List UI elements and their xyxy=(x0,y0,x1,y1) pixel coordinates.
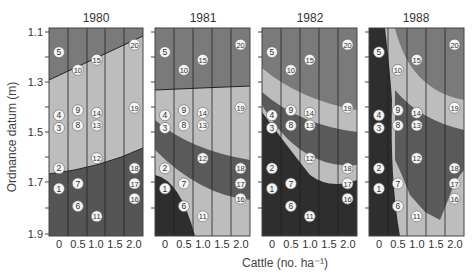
site-label: 15 xyxy=(413,56,421,65)
site-label: 9 xyxy=(181,105,186,115)
site-label: 6 xyxy=(288,201,293,211)
site-label: 5 xyxy=(163,47,168,57)
site-label: 20 xyxy=(343,41,351,50)
site-label: 18 xyxy=(450,164,458,173)
site-label: 12 xyxy=(306,154,314,163)
site-label: 4 xyxy=(270,110,275,120)
x-axis-label: Cattle (no. ha⁻¹) xyxy=(200,256,370,270)
site-label: 3 xyxy=(57,123,62,133)
site-label: 11 xyxy=(93,212,101,221)
site-label: 13 xyxy=(199,121,207,130)
site-label: 3 xyxy=(270,123,275,133)
site-label: 2 xyxy=(57,163,62,173)
site-label: 6 xyxy=(181,201,186,211)
site-label: 7 xyxy=(181,179,186,189)
svg-text:1.0: 1.0 xyxy=(302,238,317,250)
svg-text:0.5: 0.5 xyxy=(390,238,405,250)
site-label: 8 xyxy=(288,120,293,130)
svg-text:1.0: 1.0 xyxy=(88,238,103,250)
svg-text:1.5: 1.5 xyxy=(321,238,336,250)
svg-text:1.0: 1.0 xyxy=(195,238,210,250)
site-label: 19 xyxy=(130,104,138,113)
site-label: 8 xyxy=(395,120,400,130)
site-label: 15 xyxy=(93,56,101,65)
svg-text:2.0: 2.0 xyxy=(340,238,355,250)
site-label: 14 xyxy=(306,109,314,118)
site-label: 18 xyxy=(343,164,351,173)
site-label: 5 xyxy=(57,47,62,57)
site-label: 10 xyxy=(394,66,402,75)
site-label: 19 xyxy=(236,104,244,113)
site-label: 1 xyxy=(57,184,62,194)
y-tick-1.5: 1.5 xyxy=(28,126,43,138)
panel-title-1980: 1980 xyxy=(83,11,110,25)
svg-text:0.5: 0.5 xyxy=(283,238,298,250)
site-label: 17 xyxy=(450,180,458,189)
site-label: 13 xyxy=(413,121,421,130)
site-label: 6 xyxy=(395,201,400,211)
site-label: 1 xyxy=(163,184,168,194)
svg-text:0: 0 xyxy=(376,238,382,250)
site-label: 8 xyxy=(181,120,186,130)
site-label: 15 xyxy=(306,56,314,65)
site-label: 20 xyxy=(130,41,138,50)
svg-text:0: 0 xyxy=(56,238,62,250)
site-label: 9 xyxy=(75,105,80,115)
site-label: 7 xyxy=(395,179,400,189)
site-label: 8 xyxy=(75,120,80,130)
site-label: 11 xyxy=(199,212,207,221)
svg-text:0.5: 0.5 xyxy=(70,238,85,250)
site-label: 16 xyxy=(130,195,138,204)
svg-text:1.5: 1.5 xyxy=(107,238,122,250)
site-label: 10 xyxy=(287,66,295,75)
panel-title-1981: 1981 xyxy=(190,11,217,25)
site-label: 4 xyxy=(57,110,62,120)
y-tick-1.9: 1.9 xyxy=(28,228,43,240)
site-label: 1 xyxy=(377,184,382,194)
site-label: 6 xyxy=(75,201,80,211)
site-label: 20 xyxy=(236,41,244,50)
svg-text:1.0: 1.0 xyxy=(409,238,424,250)
site-label: 4 xyxy=(377,110,382,120)
site-label: 15 xyxy=(199,56,207,65)
panel-title-1988: 1988 xyxy=(403,11,430,25)
site-label: 16 xyxy=(343,195,351,204)
site-label: 14 xyxy=(93,109,101,118)
site-label: 17 xyxy=(343,180,351,189)
site-label: 11 xyxy=(306,212,314,221)
site-label: 3 xyxy=(163,123,168,133)
site-label: 18 xyxy=(236,164,244,173)
svg-text:0: 0 xyxy=(269,238,275,250)
site-label: 9 xyxy=(395,105,400,115)
svg-text:2.0: 2.0 xyxy=(233,238,248,250)
site-label: 10 xyxy=(74,66,82,75)
svg-text:2.0: 2.0 xyxy=(126,238,141,250)
site-label: 16 xyxy=(236,195,244,204)
y-axis-label: Ordnance datum (m) xyxy=(2,82,22,192)
site-label: 13 xyxy=(306,121,314,130)
site-label: 2 xyxy=(270,163,275,173)
svg-text:0.5: 0.5 xyxy=(176,238,191,250)
y-tick-1.7: 1.7 xyxy=(28,176,43,188)
y-axis: 1.1 1.3 1.5 1.7 1.9 xyxy=(28,26,49,240)
site-label: 5 xyxy=(270,47,275,57)
site-label: 2 xyxy=(377,163,382,173)
site-label: 12 xyxy=(199,154,207,163)
site-label: 16 xyxy=(450,195,458,204)
site-label: 19 xyxy=(450,104,458,113)
site-label: 7 xyxy=(75,179,80,189)
site-label: 14 xyxy=(199,109,207,118)
site-label: 12 xyxy=(413,154,421,163)
site-label: 19 xyxy=(343,104,351,113)
site-label: 17 xyxy=(236,180,244,189)
site-label: 4 xyxy=(163,110,168,120)
site-label: 3 xyxy=(377,123,382,133)
site-label: 13 xyxy=(93,121,101,130)
site-label: 20 xyxy=(450,41,458,50)
site-label: 5 xyxy=(377,47,382,57)
site-label: 14 xyxy=(413,109,421,118)
site-label: 17 xyxy=(130,180,138,189)
site-label: 2 xyxy=(163,163,168,173)
panel-title-1982: 1982 xyxy=(297,11,324,25)
site-label: 7 xyxy=(288,179,293,189)
